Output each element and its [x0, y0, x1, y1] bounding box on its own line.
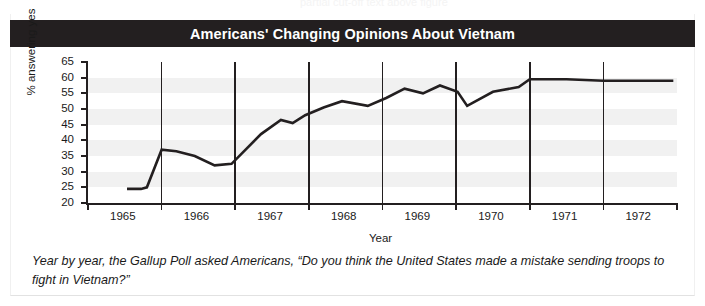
x-axis-tick-label: 1968: [331, 210, 357, 222]
x-axis-tick-label: 1970: [478, 210, 504, 222]
y-axis-tick-label: 30: [48, 166, 74, 177]
chart-title: Americans' Changing Opinions About Vietn…: [190, 26, 515, 42]
y-axis-tick: [81, 171, 88, 173]
y-axis-tick: [81, 108, 88, 110]
x-axis-tick: [382, 203, 384, 210]
x-axis-tick-label: 1966: [184, 210, 210, 222]
chart-area: % answering yes 20253035404550556065 196…: [0, 47, 705, 252]
x-axis-tick-labels: 19651966196719681969197019711972: [86, 210, 675, 226]
x-axis-tick: [529, 203, 531, 210]
y-axis-title-text: % answering yes: [25, 9, 37, 96]
y-axis-tick: [81, 186, 88, 188]
y-axis-tick: [81, 155, 88, 157]
x-axis-tick: [603, 203, 605, 210]
x-axis-tick-label: 1969: [405, 210, 431, 222]
x-axis-tick-label: 1967: [257, 210, 283, 222]
y-axis-tick-labels: 20253035404550556065: [44, 47, 74, 252]
y-axis-tick-label: 35: [48, 150, 74, 161]
x-axis-tick-label: 1965: [110, 210, 136, 222]
chart-title-bar: Americans' Changing Opinions About Vietn…: [10, 20, 695, 47]
figure-caption: Year by year, the Gallup Poll asked Amer…: [32, 252, 672, 290]
y-axis-tick-label: 60: [48, 72, 74, 83]
x-axis-title: Year: [86, 232, 675, 244]
x-axis-tick: [234, 203, 236, 210]
y-axis-tick-label: 20: [48, 197, 74, 208]
x-axis-tick: [161, 203, 163, 210]
y-axis-tick: [81, 77, 88, 79]
x-axis-tick: [87, 203, 89, 210]
plot-region: [86, 62, 677, 205]
y-axis-ticks: [81, 62, 88, 203]
x-axis-tick: [455, 203, 457, 210]
y-axis-tick: [81, 124, 88, 126]
x-axis-tick-label: 1971: [552, 210, 578, 222]
cut-off-text-row: partial cut-off text above figure: [0, 0, 705, 13]
y-axis-title: % answering yes: [25, 0, 37, 117]
y-axis-tick: [81, 61, 88, 63]
y-axis-tick-label: 55: [48, 87, 74, 98]
cut-off-text: partial cut-off text above figure: [300, 0, 448, 8]
y-axis-tick-label: 25: [48, 181, 74, 192]
y-axis-tick: [81, 139, 88, 141]
x-axis-tick-label: 1972: [625, 210, 651, 222]
data-series-line: [88, 62, 677, 203]
y-axis-tick: [81, 92, 88, 94]
y-axis-tick-label: 50: [48, 103, 74, 114]
y-axis-tick-label: 65: [48, 56, 74, 67]
y-axis-tick-label: 45: [48, 119, 74, 130]
x-axis-tick: [308, 203, 310, 210]
y-axis-tick-label: 40: [48, 134, 74, 145]
x-axis-ticks: [88, 203, 677, 210]
x-axis-tick: [676, 203, 678, 210]
